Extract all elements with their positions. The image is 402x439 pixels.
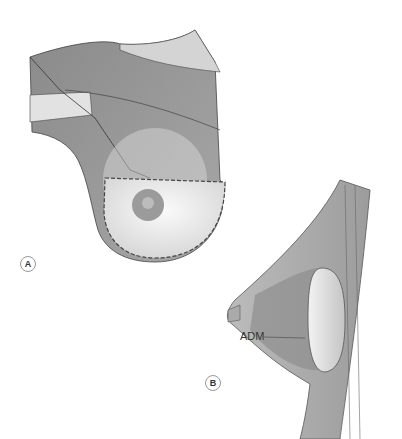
- panel-a: [30, 30, 225, 262]
- illustration: [0, 0, 402, 439]
- adm-annotation: ADM: [240, 330, 264, 342]
- panel-label-a: A: [20, 256, 36, 272]
- panel-b: [227, 180, 370, 439]
- panel-label-b: B: [205, 375, 221, 391]
